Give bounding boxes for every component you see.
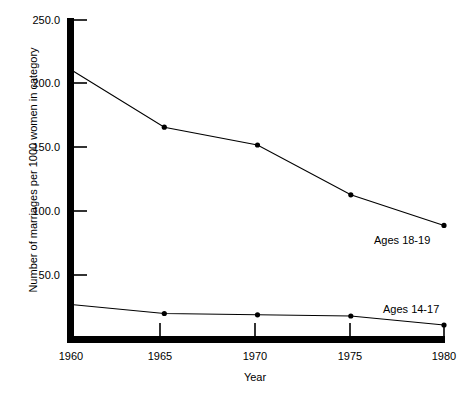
series-label-ages-14-17: Ages 14-17 — [383, 303, 439, 315]
x-axis-line — [67, 336, 445, 343]
x-tick-label-1970: 1970 — [230, 350, 280, 362]
x-tick-label-1965: 1965 — [135, 350, 185, 362]
y-axis-title: Number of marriages per 1000 women in ca… — [22, 0, 44, 340]
line-chart-plot — [0, 0, 466, 402]
y-axis-line — [67, 18, 74, 343]
data-point — [348, 192, 353, 197]
x-tick-label-1975: 1975 — [325, 350, 375, 362]
data-point — [255, 142, 260, 147]
data-point — [162, 311, 167, 316]
chart-container: 250.0 200.0 150.0 100.0 50.0 1960 1965 1… — [0, 0, 466, 402]
x-axis-title: Year — [215, 371, 295, 383]
series-label-ages-18-19: Ages 18-19 — [374, 234, 430, 246]
data-point — [348, 313, 353, 318]
data-point — [255, 312, 260, 317]
data-point — [162, 125, 167, 130]
data-point — [441, 322, 446, 327]
x-tick-label-1960: 1960 — [46, 350, 96, 362]
data-point — [441, 223, 446, 228]
y-axis-title-wrap: Number of marriages per 1000 women in ca… — [0, 0, 26, 402]
x-tick-label-1980: 1980 — [419, 350, 466, 362]
